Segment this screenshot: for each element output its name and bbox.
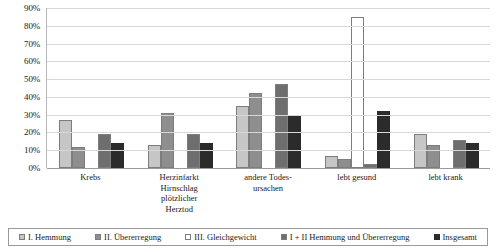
bar-group xyxy=(225,8,314,168)
legend-item[interactable]: Insgesamt xyxy=(434,233,477,242)
bar xyxy=(351,17,364,168)
y-axis-tick-label: 50% xyxy=(24,75,40,84)
bar xyxy=(288,115,301,168)
x-axis-labels: KrebsHerzinfarkt Hirnschlag plötzlicher … xyxy=(46,172,490,216)
bar xyxy=(325,156,338,168)
gridline xyxy=(47,79,490,80)
bar xyxy=(249,93,262,168)
x-axis-label: lebt krank xyxy=(401,172,490,183)
gridline xyxy=(47,97,490,98)
bar xyxy=(453,140,466,168)
chart-legend: I. HemmungII. ÜbererregungIII. Gleichgew… xyxy=(8,228,488,246)
legend-swatch-icon xyxy=(185,234,191,240)
x-axis-label: Krebs xyxy=(46,172,135,183)
gridline xyxy=(47,61,490,62)
bars-layer xyxy=(47,8,490,168)
bar-group xyxy=(313,8,402,168)
legend-item[interactable]: I + II Hemmung und Übererregung xyxy=(281,233,410,242)
bar xyxy=(200,143,213,168)
bar xyxy=(161,113,174,168)
legend-swatch-icon xyxy=(19,234,25,240)
bar xyxy=(377,111,390,168)
grid-area xyxy=(46,8,490,168)
legend-swatch-icon xyxy=(281,234,287,240)
gridline xyxy=(47,44,490,45)
legend-item[interactable]: II. Übererregung xyxy=(95,233,161,242)
y-axis: 90%80%70%60%50%40%30%20%10%0% xyxy=(0,8,44,168)
bar-group xyxy=(402,8,491,168)
legend-item[interactable]: III. Gleichgewicht xyxy=(185,233,256,242)
bar xyxy=(427,145,440,168)
gridline xyxy=(47,150,490,151)
chart-figure: 90%80%70%60%50%40%30%20%10%0% KrebsHerzi… xyxy=(0,0,496,252)
legend-swatch-icon xyxy=(434,234,440,240)
x-axis-label: lebt gesund xyxy=(312,172,401,183)
legend-item[interactable]: I. Hemmung xyxy=(19,233,71,242)
plot-area: 90%80%70%60%50%40%30%20%10%0% KrebsHerzi… xyxy=(0,0,496,215)
legend-label: III. Gleichgewicht xyxy=(194,233,256,242)
legend-label: II. Übererregung xyxy=(104,233,161,242)
legend-swatch-icon xyxy=(95,234,101,240)
gridline xyxy=(47,8,490,9)
bar xyxy=(148,145,161,168)
gridline xyxy=(47,132,490,133)
y-axis-tick-label: 80% xyxy=(24,21,40,30)
y-axis-tick-label: 0% xyxy=(28,164,40,173)
bar xyxy=(466,143,479,168)
bar xyxy=(59,120,72,168)
bar-group xyxy=(47,8,136,168)
legend-label: I + II Hemmung und Übererregung xyxy=(290,233,410,242)
y-axis-tick-label: 10% xyxy=(24,146,40,155)
x-axis-label: andere Todes- ursachen xyxy=(224,172,313,193)
legend-label: Insgesamt xyxy=(443,233,477,242)
legend-label: I. Hemmung xyxy=(28,233,71,242)
y-axis-tick-label: 40% xyxy=(24,92,40,101)
y-axis-tick-label: 90% xyxy=(24,4,40,13)
gridline xyxy=(47,115,490,116)
gridline xyxy=(47,26,490,27)
x-axis-label: Herzinfarkt Hirnschlag plötzlicher Herzt… xyxy=(135,172,224,214)
bar xyxy=(338,159,351,168)
y-axis-tick-label: 70% xyxy=(24,39,40,48)
bar xyxy=(111,143,124,168)
y-axis-tick-label: 20% xyxy=(24,128,40,137)
gridline xyxy=(47,168,490,169)
y-axis-tick-label: 30% xyxy=(24,110,40,119)
bar-group xyxy=(136,8,225,168)
y-axis-tick-label: 60% xyxy=(24,57,40,66)
